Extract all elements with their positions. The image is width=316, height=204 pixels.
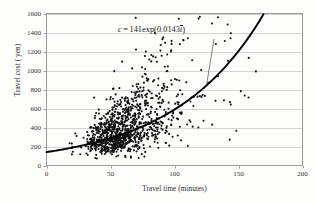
equation-equals: =: [123, 25, 128, 34]
scatter-point: [117, 121, 119, 123]
scatter-point: [255, 70, 257, 72]
scatter-point: [140, 137, 142, 139]
scatter-point: [111, 119, 113, 121]
scatter-point: [109, 98, 111, 100]
scatter-point: [143, 135, 145, 137]
scatter-point: [171, 83, 173, 85]
scatter-point: [168, 145, 170, 147]
equation-lhs: c: [118, 25, 122, 34]
scatter-point: [112, 148, 114, 150]
scatter-point: [129, 148, 131, 150]
scatter-point: [135, 96, 137, 98]
scatter-point: [125, 104, 127, 106]
scatter-point: [141, 153, 143, 155]
scatter-point: [114, 111, 116, 113]
scatter-point: [117, 148, 119, 150]
scatter-point: [166, 70, 168, 72]
scatter-point: [132, 100, 134, 102]
scatter-point: [123, 137, 125, 139]
scatter-point: [124, 120, 126, 122]
scatter-point: [133, 124, 135, 126]
scatter-point: [88, 134, 90, 136]
scatter-point: [124, 146, 126, 148]
scatter-point: [223, 99, 225, 101]
scatter-point: [131, 135, 133, 137]
scatter-point: [171, 115, 173, 117]
scatter-point: [146, 138, 148, 140]
scatter-point: [98, 148, 100, 150]
scatter-point: [132, 145, 134, 147]
scatter-point: [143, 89, 145, 91]
scatter-point: [144, 94, 146, 96]
scatter-point: [137, 142, 139, 144]
scatter-point: [191, 59, 193, 61]
scatter-point: [171, 119, 173, 121]
scatter-point: [116, 139, 118, 141]
scatter-point: [143, 82, 145, 84]
scatter-point: [240, 90, 242, 92]
equation-function: exp: [142, 25, 154, 34]
scatter-point: [176, 79, 178, 81]
scatter-point: [203, 120, 205, 122]
scatter-point: [139, 134, 141, 136]
scatter-point: [111, 109, 113, 111]
scatter-point: [113, 145, 115, 147]
scatter-point: [95, 146, 97, 148]
scatter-point: [94, 115, 96, 117]
scatter-point: [153, 130, 155, 132]
scatter-point: [104, 142, 106, 144]
scatter-point: [137, 113, 139, 115]
scatter-point: [145, 104, 147, 106]
scatter-point: [121, 145, 123, 147]
scatter-point: [104, 123, 106, 125]
scatter-point: [136, 118, 138, 120]
scatter-point: [93, 97, 95, 99]
scatter-point: [122, 111, 124, 113]
scatter-point: [149, 145, 151, 147]
scatter-point: [115, 151, 117, 153]
scatter-point: [126, 142, 128, 144]
scatter-point: [111, 123, 113, 125]
scatter-point: [99, 134, 101, 136]
scatter-point: [146, 134, 148, 136]
scatter-point: [120, 105, 122, 107]
scatter-point: [248, 57, 250, 59]
scatter-point: [156, 95, 158, 97]
scatter-point: [132, 105, 134, 107]
scatter-point: [136, 126, 138, 128]
scatter-point: [94, 157, 96, 159]
scatter-point: [157, 84, 159, 86]
scatter-point: [129, 150, 131, 152]
scatter-point: [95, 112, 97, 114]
scatter-point: [119, 122, 121, 124]
scatter-point: [106, 120, 108, 122]
scatter-point: [192, 105, 194, 107]
scatter-point: [165, 130, 167, 132]
scatter-point: [160, 125, 162, 127]
scatter-point: [148, 128, 150, 130]
scatter-point: [171, 43, 173, 45]
scatter-point: [136, 91, 138, 93]
scatter-point: [170, 49, 172, 51]
scatter-point: [147, 136, 149, 138]
scatter-point: [136, 86, 138, 88]
scatter-point: [97, 130, 99, 132]
scatter-point: [115, 93, 117, 95]
scatter-point: [163, 109, 165, 111]
scatter-point: [137, 145, 139, 147]
equation-close-paren: ): [182, 23, 185, 35]
scatter-point: [111, 131, 113, 133]
scatter-point: [164, 66, 166, 68]
scatter-point: [92, 135, 94, 137]
scatter-point: [104, 132, 106, 134]
scatter-point: [170, 79, 172, 81]
scatter-point: [152, 97, 154, 99]
scatter-point: [211, 124, 213, 126]
scatter-point: [106, 142, 108, 144]
scatter-point: [139, 132, 141, 134]
scatter-point: [174, 103, 176, 105]
scatter-point: [113, 140, 115, 142]
scatter-point: [150, 111, 152, 113]
scatter-point: [114, 148, 116, 150]
scatter-point: [141, 118, 143, 120]
